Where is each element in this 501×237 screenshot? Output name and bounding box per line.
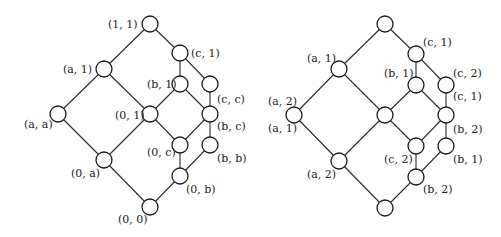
lattice-edge [294, 115, 339, 161]
lattice-edge [339, 161, 385, 208]
lattice-node [331, 153, 347, 169]
lattice-node [438, 77, 454, 93]
node-label: (a, 2) [268, 95, 297, 108]
node-label: (a, a) [24, 118, 53, 131]
node-label: (1, 1) [108, 18, 138, 31]
node-label: (a, 2) [307, 168, 336, 181]
node-label: (c, 2) [453, 67, 482, 80]
node-label: (0, b) [186, 183, 216, 196]
node-label: (c, 2) [384, 153, 413, 166]
lattice-node [438, 107, 454, 123]
lattice-edge [104, 69, 150, 114]
lattice-node [377, 200, 393, 216]
lattice-diagrams-canvas: (1, 1)(c, 1)(a, 1)(b, 1)(c, c)(a, a)(0, … [0, 0, 501, 237]
lattice-edge [339, 115, 385, 161]
lattice-node [408, 169, 424, 185]
lattice-node [408, 138, 424, 154]
node-label: (b, 2) [453, 123, 483, 136]
lattice-node [172, 168, 188, 184]
lattice-node [377, 107, 393, 123]
lattice-node [96, 152, 112, 168]
node-label: (c, c) [217, 93, 245, 106]
lattice-node [202, 137, 218, 153]
lattice-node [286, 107, 302, 123]
lattice-node [142, 16, 158, 32]
node-label: (b, 2) [423, 183, 453, 196]
node-label: (b, 1) [147, 78, 177, 91]
node-label: (c, 1) [453, 90, 482, 103]
lattice-edge [339, 24, 385, 69]
right-lattice-diagram: (c, 1)(a, 1)(b, 1)(c, 2)(a, 2)(c, 1)(c, … [268, 16, 483, 216]
lattice-edge [58, 114, 104, 160]
node-label: (c, 1) [191, 47, 220, 60]
lattice-edge [104, 160, 150, 207]
lattice-node [202, 106, 218, 122]
lattice-edge [294, 69, 339, 115]
node-label: (b, 1) [384, 67, 414, 80]
node-label: (0, 1) [115, 109, 145, 122]
lattice-node [96, 61, 112, 77]
lattice-edge [339, 69, 385, 115]
lattice-node [202, 76, 218, 92]
node-label: (0, a) [71, 167, 100, 180]
left-lattice-diagram: (1, 1)(c, 1)(a, 1)(b, 1)(c, c)(a, a)(0, … [24, 16, 247, 226]
node-label: (a, 1) [268, 122, 297, 135]
lattice-node [438, 138, 454, 154]
lattice-node [172, 45, 188, 61]
lattice-node [377, 16, 393, 32]
node-label: (0, 0) [118, 213, 148, 226]
node-label: (a, 1) [63, 63, 92, 76]
node-label: (a, 1) [307, 52, 336, 65]
node-label: (b, 1) [453, 153, 483, 166]
node-label: (b, b) [217, 152, 247, 165]
node-label: (0, c) [147, 146, 176, 159]
node-label: (b, c) [217, 120, 246, 133]
lattice-node [408, 46, 424, 62]
node-label: (c, 1) [423, 36, 452, 49]
